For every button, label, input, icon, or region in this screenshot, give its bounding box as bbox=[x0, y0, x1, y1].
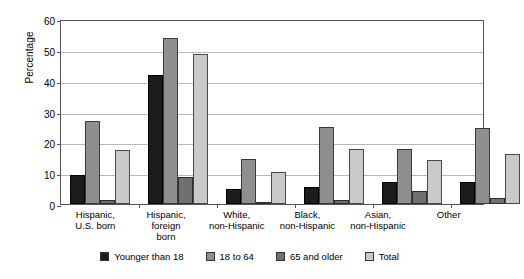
legend-item[interactable]: 18 to 64 bbox=[206, 251, 254, 262]
bar-group bbox=[61, 21, 139, 204]
legend-item[interactable]: 65 and older bbox=[276, 251, 343, 262]
bar-group bbox=[139, 21, 217, 204]
bar[interactable] bbox=[70, 175, 85, 204]
bar[interactable] bbox=[178, 177, 193, 204]
x-axis-tick-label: Black,non-Hispanic bbox=[272, 209, 343, 242]
bar[interactable] bbox=[427, 160, 442, 204]
x-axis-tick-mark bbox=[295, 204, 296, 208]
bar[interactable] bbox=[505, 154, 520, 204]
legend-swatch-icon bbox=[206, 252, 215, 261]
x-axis-tick-mark bbox=[451, 204, 452, 208]
bar-group bbox=[373, 21, 451, 204]
bar[interactable] bbox=[256, 202, 271, 204]
x-axis-tick-mark bbox=[139, 204, 140, 208]
legend-label: Younger than 18 bbox=[114, 251, 183, 262]
y-axis-tick-label: 30 bbox=[44, 108, 55, 119]
bar[interactable] bbox=[148, 75, 163, 204]
y-axis-tick-label: 20 bbox=[44, 139, 55, 150]
legend-swatch-icon bbox=[365, 252, 374, 261]
legend-label: Total bbox=[379, 251, 399, 262]
x-axis-tick-label: Hispanic,foreignborn bbox=[131, 209, 202, 242]
chart-legend: Younger than 1818 to 6465 and olderTotal bbox=[0, 251, 499, 262]
y-axis-tick-label: 10 bbox=[44, 170, 55, 181]
legend-label: 18 to 64 bbox=[220, 251, 254, 262]
bar[interactable] bbox=[85, 121, 100, 204]
bar[interactable] bbox=[412, 191, 427, 204]
x-axis-tick-mark bbox=[373, 204, 374, 208]
y-axis-tick-mark bbox=[57, 206, 61, 207]
x-axis-tick-label: Asian,non-Hispanic bbox=[343, 209, 414, 242]
plot-area: 0102030405060 bbox=[60, 20, 484, 205]
bar[interactable] bbox=[271, 172, 286, 204]
x-axis-tick-mark bbox=[217, 204, 218, 208]
bar[interactable] bbox=[490, 198, 505, 204]
y-axis-tick-label: 60 bbox=[44, 16, 55, 27]
bar[interactable] bbox=[304, 187, 319, 204]
bar[interactable] bbox=[475, 128, 490, 204]
legend-label: 65 and older bbox=[290, 251, 343, 262]
x-axis-labels: Hispanic,U.S. bornHispanic,foreignbornWh… bbox=[60, 209, 484, 242]
legend-item[interactable]: Younger than 18 bbox=[100, 251, 183, 262]
bar[interactable] bbox=[460, 182, 475, 205]
y-axis-tick-label: 50 bbox=[44, 46, 55, 57]
bar-group bbox=[451, 21, 524, 204]
x-axis-tick-label: Other bbox=[413, 209, 484, 242]
bar[interactable] bbox=[100, 200, 115, 204]
bar-group bbox=[295, 21, 373, 204]
bar[interactable] bbox=[241, 159, 256, 204]
x-axis-tick-label: White,non-Hispanic bbox=[201, 209, 272, 242]
y-axis-title: Percentage bbox=[24, 0, 35, 123]
y-axis-tick-label: 40 bbox=[44, 77, 55, 88]
bar[interactable] bbox=[319, 127, 334, 204]
legend-item[interactable]: Total bbox=[365, 251, 399, 262]
bar[interactable] bbox=[115, 150, 130, 204]
bar[interactable] bbox=[397, 149, 412, 205]
legend-swatch-icon bbox=[100, 252, 109, 261]
bar[interactable] bbox=[226, 189, 241, 204]
bar[interactable] bbox=[163, 38, 178, 204]
y-axis-tick-label: 0 bbox=[49, 201, 55, 212]
bar[interactable] bbox=[334, 200, 349, 204]
bar-group bbox=[217, 21, 295, 204]
bar-groups bbox=[61, 21, 483, 204]
bar[interactable] bbox=[349, 149, 364, 204]
bar[interactable] bbox=[193, 54, 208, 204]
legend-swatch-icon bbox=[276, 252, 285, 261]
x-axis-tick-label: Hispanic,U.S. born bbox=[60, 209, 131, 242]
bar[interactable] bbox=[382, 182, 397, 204]
